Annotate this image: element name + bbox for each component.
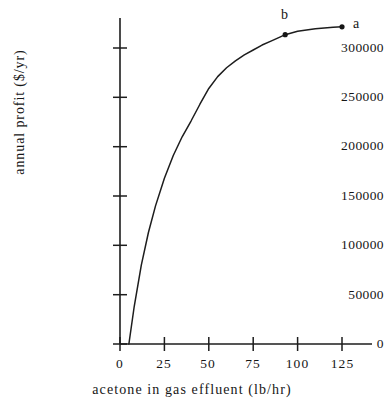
x-tick-label-0: 0 — [100, 357, 140, 371]
y-tick-label-150000: 150000 — [274, 189, 384, 203]
chart-figure: 300000 250000 200000 150000 100000 50000… — [0, 0, 384, 414]
data-point-a-marker — [339, 24, 344, 29]
x-tick-label-75: 75 — [233, 357, 273, 371]
data-point-a-label: a — [353, 17, 359, 31]
x-axis-title: acetone in gas effluent (lb/hr) — [0, 382, 384, 398]
data-point-b-label: b — [281, 8, 288, 22]
y-tick-label-0: 0 — [274, 337, 384, 351]
y-tick-label-100000: 100000 — [274, 238, 384, 252]
x-tick-label-125: 125 — [320, 357, 365, 371]
x-tick-label-25: 25 — [144, 357, 184, 371]
plot-canvas — [0, 0, 384, 414]
y-tick-label-50000: 50000 — [274, 288, 384, 302]
x-tick-label-50: 50 — [188, 357, 228, 371]
y-axis-title: annual profit ($/yr) — [12, 2, 28, 222]
y-tick-label-200000: 200000 — [274, 139, 384, 153]
y-tick-label-250000: 250000 — [274, 90, 384, 104]
data-point-b-marker — [283, 32, 288, 37]
x-tick-label-100: 100 — [275, 357, 320, 371]
y-tick-label-300000: 300000 — [274, 41, 384, 55]
